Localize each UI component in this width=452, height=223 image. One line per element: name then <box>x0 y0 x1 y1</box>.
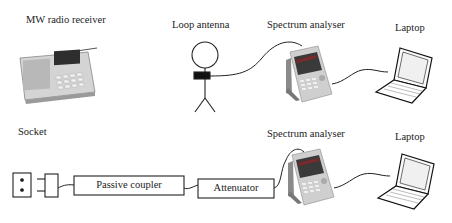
laptop-icon <box>378 154 434 209</box>
laptop-label: Laptop <box>395 22 425 33</box>
mw-radio-receiver-icon <box>20 48 97 104</box>
spectrum-analyser-label: Spectrum analyser <box>267 19 345 30</box>
attenuator-label: Attenuator <box>198 182 274 193</box>
socket-icon <box>13 173 31 197</box>
laptop-icon <box>376 48 432 103</box>
spectrum-analyser-icon <box>288 149 334 205</box>
spectrum-analyser-icon <box>286 46 332 102</box>
cable-analyser-to-laptop <box>334 173 390 188</box>
spectrum-analyser-label: Spectrum analyser <box>267 128 345 139</box>
cable-analyser-to-laptop <box>332 69 388 84</box>
mw-radio-receiver-label: MW radio receiver <box>26 14 106 25</box>
loop-antenna-label: Loop antenna <box>172 19 229 30</box>
plug-icon <box>37 174 58 197</box>
loop-antenna-icon <box>192 42 218 112</box>
socket-label: Socket <box>18 126 47 137</box>
laptop-label: Laptop <box>395 131 425 142</box>
passive-coupler-label: Passive coupler <box>74 179 184 190</box>
